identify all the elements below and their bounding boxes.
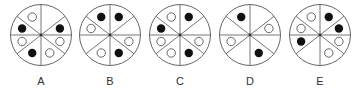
center-point [40, 34, 43, 37]
filled-dot-icon [56, 24, 64, 32]
option-label: C [176, 75, 184, 87]
open-dot-icon [87, 24, 95, 32]
option-c[interactable]: C [150, 5, 211, 88]
open-dot-icon [97, 49, 105, 57]
filled-dot-icon [335, 24, 343, 32]
option-b[interactable]: B [80, 5, 141, 88]
open-dot-icon [227, 37, 235, 45]
filled-dot-icon [115, 49, 123, 57]
filled-dot-icon [185, 49, 193, 57]
filled-dot-icon [255, 49, 263, 57]
filled-dot-icon [297, 37, 305, 45]
filled-dot-icon [28, 49, 36, 57]
open-dot-icon [335, 37, 343, 45]
open-dot-icon [297, 24, 305, 32]
filled-dot-icon [18, 24, 26, 32]
open-dot-icon [125, 37, 133, 45]
open-dot-icon [325, 49, 333, 57]
filled-dot-icon [185, 13, 193, 21]
option-d[interactable]: D [220, 5, 281, 88]
option-a[interactable]: A [11, 5, 72, 88]
option-e[interactable]: E [290, 5, 351, 88]
filled-dot-icon [325, 13, 333, 21]
open-dot-icon [157, 37, 165, 45]
option-label: A [37, 75, 45, 87]
sector-wheel-icon [220, 5, 281, 66]
open-dot-icon [18, 37, 26, 45]
open-dot-icon [167, 13, 175, 21]
filled-dot-icon [97, 13, 105, 21]
open-dot-icon [307, 13, 315, 21]
filled-dot-icon [237, 13, 245, 21]
open-dot-icon [167, 49, 175, 57]
open-dot-icon [28, 13, 36, 21]
filled-dot-icon [157, 24, 165, 32]
open-dot-icon [265, 24, 273, 32]
open-dot-icon [46, 49, 54, 57]
option-label: E [316, 75, 323, 87]
center-point [109, 34, 112, 37]
options-figure: A B C D E [0, 0, 361, 94]
center-point [179, 34, 182, 37]
sector-wheel-icon [11, 5, 72, 66]
option-label: D [246, 75, 254, 87]
center-point [319, 34, 322, 37]
filled-dot-icon [115, 13, 123, 21]
sector-wheel-icon [290, 5, 351, 66]
sector-wheel-icon [150, 5, 211, 66]
open-dot-icon [195, 37, 203, 45]
option-label: B [106, 75, 113, 87]
center-point [249, 34, 252, 37]
sector-wheel-icon [80, 5, 141, 66]
open-dot-icon [56, 37, 64, 45]
